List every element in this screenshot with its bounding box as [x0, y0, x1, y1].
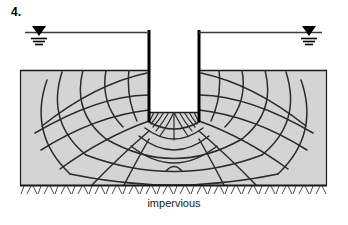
- figure-number: 4.: [11, 5, 21, 19]
- impervious-boundary: [20, 186, 327, 195]
- water-table-triangle-icon: [32, 26, 46, 36]
- flow-net-diagram: [0, 0, 348, 225]
- impervious-label: impervious: [0, 197, 348, 210]
- sheet-pile-walls: [149, 30, 199, 122]
- impervious-hatching: [21, 186, 326, 194]
- water-table-triangle-icon: [302, 26, 316, 36]
- water-table-symbol-left: [31, 26, 47, 45]
- figure-root: 4.: [0, 0, 348, 225]
- water-table-symbol-right: [301, 26, 317, 45]
